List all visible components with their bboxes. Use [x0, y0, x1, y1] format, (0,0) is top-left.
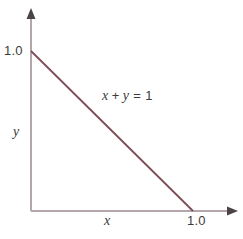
y-axis-tick-label-1: 1.0 — [4, 43, 23, 58]
y-axis-name-label: y — [13, 124, 19, 140]
plot-area — [0, 0, 243, 239]
equation-term-x: x — [102, 88, 109, 103]
x-axis-arrowhead-icon — [227, 207, 238, 216]
equation-operator-equals: = — [133, 88, 141, 103]
chart-figure: 1.0 1.0 y x x+y=1 — [0, 0, 243, 239]
equation-operator-plus: + — [112, 88, 120, 103]
x-axis-name-label: x — [104, 213, 110, 229]
line-equation-annotation: x+y=1 — [102, 88, 153, 104]
constraint-line-series — [31, 51, 193, 211]
x-axis-tick-label-1: 1.0 — [187, 213, 206, 228]
equation-term-y: y — [123, 88, 130, 103]
y-axis-arrowhead-icon — [27, 8, 36, 19]
equation-value: 1 — [145, 88, 153, 103]
